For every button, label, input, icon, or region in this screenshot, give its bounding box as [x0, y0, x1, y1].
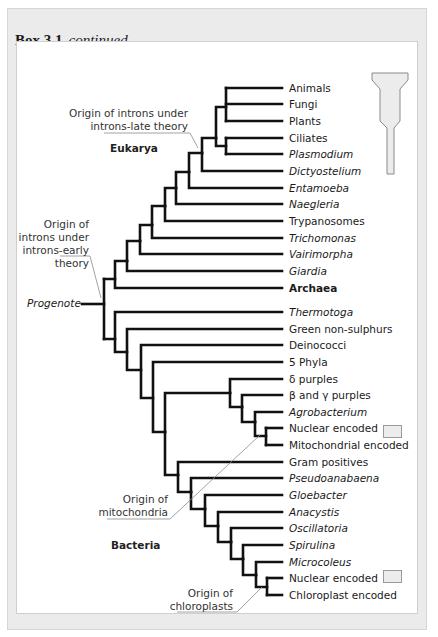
- leaf-label: Nuclear encoded: [289, 422, 378, 434]
- leaf-label: Gram positives: [289, 456, 368, 468]
- funnel-scale-icon: [372, 73, 408, 174]
- leaf-label: Entamoeba: [289, 182, 349, 194]
- group-eukarya: Eukarya: [110, 142, 158, 154]
- phylogenetic-tree: [0, 0, 438, 637]
- leaf-label: Microcoleus: [289, 556, 351, 568]
- leaf-label: Plasmodium: [289, 148, 353, 160]
- leaf-label: Nuclear encoded: [289, 572, 378, 584]
- leaf-label: Mitochondrial encoded: [289, 439, 409, 451]
- leaf-label: Naegleria: [289, 198, 339, 210]
- nuclear-mito-swatch: [383, 425, 402, 438]
- note-chloroplasts: Origin of chloroplasts: [170, 587, 233, 613]
- leaf-label: Fungi: [289, 98, 317, 110]
- leaf-label: Chloroplast encoded: [289, 589, 397, 601]
- leaf-label: Giardia: [289, 265, 327, 277]
- leaf-label: Pseudoanabaena: [289, 472, 379, 484]
- root-progenote: Progenote: [27, 297, 81, 309]
- note-introns-late: Origin of introns under introns-late the…: [69, 107, 188, 133]
- leaf-label: Plants: [289, 115, 321, 127]
- nuclear-chloro-swatch: [383, 570, 402, 583]
- leaf-label: Vairimorpha: [289, 248, 353, 260]
- leaf-label: Animals: [289, 82, 331, 94]
- leaf-label: Green non-sulphurs: [289, 323, 392, 335]
- leaf-label: Archaea: [289, 282, 337, 294]
- leaf-label: Trichomonas: [289, 232, 356, 244]
- leaf-label: Ciliates: [289, 132, 328, 144]
- note-mitochondria: Origin of mitochondria: [98, 493, 168, 519]
- note-introns-early: Origin of introns under introns-early th…: [19, 218, 89, 270]
- leaf-label: Dictyostelium: [289, 165, 361, 177]
- leaf-label: Anacystis: [289, 506, 339, 518]
- leaf-label: 5 Phyla: [289, 356, 328, 368]
- group-bacteria: Bacteria: [111, 539, 160, 551]
- leaf-label: Trypanosomes: [289, 215, 365, 227]
- leaf-label: Thermotoga: [289, 306, 353, 318]
- leaf-label: Oscillatoria: [289, 522, 348, 534]
- leaf-label: Spirulina: [289, 539, 335, 551]
- leaf-label: Agrobacterium: [289, 406, 367, 418]
- leaf-label: δ purples: [289, 373, 338, 385]
- leaf-label: Gloebacter: [289, 489, 347, 501]
- leaf-label: β and γ purples: [289, 389, 371, 401]
- leaf-label: Deinococci: [289, 339, 346, 351]
